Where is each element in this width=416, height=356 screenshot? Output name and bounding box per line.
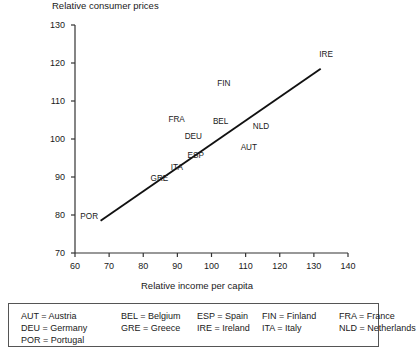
- trend-line: [101, 69, 321, 221]
- x-tick-label: 100: [199, 261, 225, 271]
- y-tick-label: 130: [39, 20, 65, 30]
- x-tick-label: 90: [164, 261, 190, 271]
- legend-entry-aut: AUT = Austria: [21, 311, 77, 322]
- legend-entry-bel: BEL = Belgium: [121, 311, 180, 322]
- y-tick-label: 120: [39, 58, 65, 68]
- legend-entry-fin: FIN = Finland: [262, 311, 316, 322]
- data-point-label-ita: ITA: [171, 163, 183, 172]
- legend-entry-por: POR = Portugal: [21, 335, 84, 346]
- x-tick-label: 110: [233, 261, 259, 271]
- data-point-label-deu: DEU: [185, 132, 202, 141]
- y-tick-label: 90: [39, 172, 65, 182]
- trend-line-segment: [101, 69, 321, 221]
- axes: [75, 25, 348, 253]
- legend-entry-esp: ESP = Spain: [197, 311, 248, 322]
- x-axis-ticks: [75, 253, 348, 257]
- x-axis-title: Relative income per capita: [141, 280, 253, 292]
- data-point-label-bel: BEL: [213, 117, 228, 126]
- data-point-label-aut: AUT: [241, 143, 257, 152]
- x-tick-label: 80: [130, 261, 156, 271]
- data-point-label-por: POR: [80, 212, 98, 221]
- legend-entry-ire: IRE = Ireland: [197, 323, 250, 334]
- legend-entry-ita: ITA = Italy: [262, 323, 302, 334]
- legend-box: AUT = AustriaBEL = BelgiumESP = SpainFIN…: [8, 303, 379, 347]
- data-point-label-ire: IRE: [319, 50, 333, 59]
- y-tick-label: 100: [39, 134, 65, 144]
- x-tick-label: 130: [301, 261, 327, 271]
- legend-entry-deu: DEU = Germany: [21, 323, 87, 334]
- data-point-label-fra: FRA: [168, 115, 184, 124]
- x-tick-label: 70: [96, 261, 122, 271]
- data-point-label-nld: NLD: [253, 122, 269, 131]
- y-tick-label: 110: [39, 96, 65, 106]
- data-point-label-esp: ESP: [188, 151, 204, 160]
- y-tick-label: 80: [39, 210, 65, 220]
- legend-entry-fra: FRA = France: [339, 311, 395, 322]
- legend-entry-gre: GRE = Greece: [121, 323, 180, 334]
- x-tick-label: 60: [62, 261, 88, 271]
- data-point-label-fin: FIN: [217, 79, 230, 88]
- y-tick-label: 70: [39, 248, 65, 258]
- x-tick-label: 120: [267, 261, 293, 271]
- x-tick-label: 140: [335, 261, 361, 271]
- legend-entry-nld: NLD = Netherlands: [339, 323, 416, 334]
- data-point-label-gre: GRE: [151, 174, 169, 183]
